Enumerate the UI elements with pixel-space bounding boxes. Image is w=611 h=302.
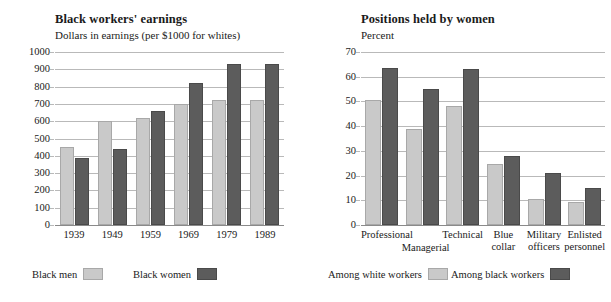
- legend-item: Among white workers: [328, 268, 448, 280]
- x-axis-label: 1939: [55, 229, 93, 241]
- y-axis-tick: [356, 77, 360, 78]
- y-axis-tick-label: 50: [346, 96, 357, 107]
- plot-area-left: 01002003004005006007008009001000: [55, 52, 284, 225]
- chart-title-left: Black workers' earnings: [55, 12, 187, 27]
- bar: [265, 64, 279, 225]
- x-axis-label: Technical: [442, 229, 483, 241]
- bar: [75, 158, 89, 225]
- bar: [504, 156, 520, 225]
- x-axis-label: Managerial: [402, 242, 443, 254]
- chart-panel-black-workers-earnings: Black workers' earnings Dollars in earni…: [0, 0, 305, 302]
- x-axis-label: 1959: [131, 229, 169, 241]
- y-axis-tick: [50, 52, 54, 53]
- y-axis-tick-label: 700: [34, 99, 50, 110]
- x-axis-label: 1969: [170, 229, 208, 241]
- bar: [60, 147, 74, 225]
- bar: [250, 100, 264, 225]
- gridline: [361, 225, 605, 226]
- legend-label: Black women: [133, 269, 191, 280]
- bar: [227, 64, 241, 225]
- y-axis-tick-label: 10: [346, 195, 357, 206]
- bar: [568, 202, 584, 225]
- bar: [487, 164, 503, 225]
- legend-swatch: [83, 268, 103, 280]
- y-axis-tick-label: 30: [346, 146, 357, 157]
- y-axis-tick: [50, 225, 54, 226]
- bar: [365, 100, 381, 225]
- y-axis-tick: [356, 200, 360, 201]
- y-axis-tick: [50, 156, 54, 157]
- figure-root: Black workers' earnings Dollars in earni…: [0, 0, 611, 302]
- legend-item: Black women: [133, 268, 217, 280]
- bar: [463, 69, 479, 225]
- y-axis-tick-label: 300: [34, 168, 50, 179]
- bar: [545, 173, 561, 225]
- y-axis-tick: [50, 104, 54, 105]
- bar: [98, 121, 112, 225]
- chart-subtitle-right: Percent: [361, 29, 394, 41]
- bar: [136, 118, 150, 225]
- x-axis-label: 1989: [246, 229, 284, 241]
- y-axis-tick-label: 70: [346, 47, 357, 58]
- y-axis-tick-label: 800: [34, 81, 50, 92]
- bar: [212, 100, 226, 225]
- x-axis-label: Professional: [361, 229, 402, 241]
- chart-title-right: Positions held by women: [361, 12, 495, 27]
- legend-swatch: [197, 268, 217, 280]
- bar-group-right: [361, 52, 605, 225]
- y-axis-tick-label: 20: [346, 170, 357, 181]
- x-axis-label: Enlistedpersonnel: [564, 229, 605, 252]
- y-axis-tick-label: 400: [34, 151, 50, 162]
- y-axis-tick-label: 40: [346, 121, 357, 132]
- bar: [528, 199, 544, 225]
- y-axis-tick: [50, 139, 54, 140]
- y-axis-tick: [356, 176, 360, 177]
- y-axis-tick: [50, 173, 54, 174]
- y-axis-tick-label: 0: [351, 220, 356, 231]
- legend-swatch: [550, 268, 570, 280]
- plot-area-right: 010203040506070: [361, 52, 605, 225]
- bar: [174, 104, 188, 225]
- y-axis-tick-label: 1000: [29, 47, 50, 58]
- bar: [406, 129, 422, 225]
- y-axis-tick-label: 60: [346, 71, 357, 82]
- bar: [151, 111, 165, 225]
- legend-swatch: [428, 268, 448, 280]
- legend-label: Among black workers: [451, 269, 544, 280]
- bar: [382, 68, 398, 225]
- bar: [189, 83, 203, 225]
- chart-subtitle-left: Dollars in earnings (per $1000 for white…: [55, 29, 240, 41]
- bar: [585, 188, 601, 225]
- y-axis-tick: [50, 87, 54, 88]
- y-axis-tick-label: 600: [34, 116, 50, 127]
- legend-item: Among black workers: [451, 268, 570, 280]
- y-axis-tick-label: 100: [34, 202, 50, 213]
- bar: [446, 106, 462, 225]
- y-axis-tick: [356, 52, 360, 53]
- y-axis-tick-label: 200: [34, 185, 50, 196]
- y-axis-tick-label: 500: [34, 133, 50, 144]
- y-axis-tick: [356, 151, 360, 152]
- y-axis-tick-label: 900: [34, 64, 50, 75]
- y-axis-tick: [50, 69, 54, 70]
- y-axis-tick: [356, 101, 360, 102]
- chart-panel-positions-held-by-women: Positions held by women Percent 01020304…: [306, 0, 611, 302]
- legend-label: Black men: [32, 269, 77, 280]
- x-axis-label: Militaryofficers: [524, 229, 565, 252]
- legend-right: Among white workersAmong black workers: [306, 268, 611, 294]
- gridline: [55, 225, 284, 226]
- y-axis-tick-label: 0: [45, 220, 50, 231]
- bar-group-left: [55, 52, 284, 225]
- x-axis-label: Bluecollar: [483, 229, 524, 252]
- y-axis-tick: [50, 190, 54, 191]
- bar: [113, 149, 127, 225]
- x-axis-label: 1979: [208, 229, 246, 241]
- legend-item: Black men: [32, 268, 103, 280]
- y-axis-tick: [356, 225, 360, 226]
- y-axis-tick: [50, 208, 54, 209]
- legend-label: Among white workers: [328, 269, 422, 280]
- x-axis-label: 1949: [93, 229, 131, 241]
- legend-left: Black menBlack women: [0, 268, 305, 294]
- bar: [423, 89, 439, 225]
- y-axis-tick: [50, 121, 54, 122]
